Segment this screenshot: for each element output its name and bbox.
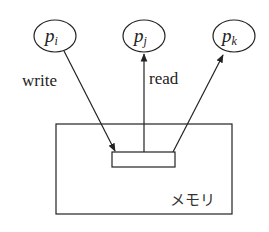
shared-memory-diagram: pi pj pk write read メモリ: [0, 0, 269, 232]
write-arrow: [64, 51, 115, 151]
process-label-pk: pk: [220, 25, 238, 48]
process-label-pi: pi: [43, 25, 58, 48]
process-label-pj: pj: [132, 25, 148, 48]
read-arrow-pk: [173, 55, 223, 152]
process-node-pi: pi: [34, 20, 76, 52]
process-node-pj: pj: [123, 20, 165, 52]
memory-cell: [112, 152, 175, 167]
read-label: read: [149, 69, 179, 88]
write-label: write: [22, 71, 57, 90]
process-node-pk: pk: [213, 20, 255, 52]
memory-label: メモリ: [170, 191, 215, 209]
